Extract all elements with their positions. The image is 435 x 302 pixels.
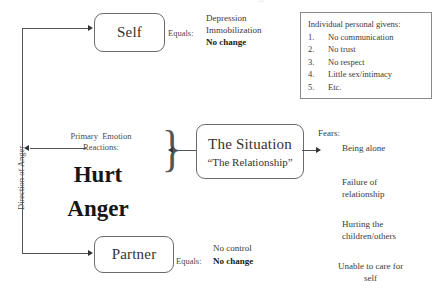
givens-item-text: No respect — [328, 57, 424, 67]
cropped-title-remnant: ○ — [258, 0, 264, 5]
emotion-anger: Anger — [40, 195, 156, 222]
node-self-label: Self — [117, 24, 142, 41]
givens-item: 1. No communication — [308, 32, 424, 42]
givens-title: Individual personal givens: — [308, 19, 424, 29]
partner-outcome-line1: No control — [213, 243, 252, 254]
situation-left-arrowhead — [168, 147, 173, 153]
fear-item-line2: self — [338, 273, 403, 285]
givens-item-text: No trust — [328, 44, 424, 54]
trunk-to-self-line — [22, 28, 88, 29]
fear-item: Failure of relationship — [342, 177, 385, 200]
partner-arrowhead — [88, 250, 93, 256]
node-self[interactable]: Self — [94, 13, 165, 52]
givens-item: 4. Little sex/intimacy — [308, 69, 424, 79]
node-partner[interactable]: Partner — [94, 236, 174, 273]
trunk-to-partner-line — [22, 253, 88, 254]
fear-item-line1: Hurting the — [342, 219, 396, 231]
fears-title: Fears: — [318, 128, 340, 139]
givens-item-text: Etc. — [328, 82, 424, 92]
givens-item: 2. No trust — [308, 44, 424, 54]
givens-item-number: 5. — [308, 82, 328, 92]
self-outcome-line1: Depression — [206, 13, 247, 24]
self-outcome-line3: No change — [206, 37, 246, 48]
node-situation[interactable]: The Situation “The Relationship” — [196, 124, 304, 179]
self-outcome-line2: Immobilization — [206, 25, 262, 36]
givens-box: Individual personal givens: 1. No commun… — [300, 12, 432, 99]
fear-item: Being alone — [342, 143, 385, 155]
givens-item-number: 4. — [308, 69, 328, 79]
givens-item-text: Little sex/intimacy — [328, 69, 424, 79]
fears-arrowhead — [316, 147, 321, 153]
node-situation-label: The Situation — [208, 136, 292, 153]
fear-item: Hurting the children/others — [342, 219, 396, 242]
fear-item-line2: relationship — [342, 189, 385, 201]
node-situation-sublabel: “The Relationship” — [207, 156, 292, 168]
fear-item-line1: Being alone — [342, 143, 385, 155]
situation-to-fears-line — [302, 150, 316, 151]
diagram-canvas: ○ Direction of Anger Self Equals: Depres… — [0, 0, 435, 302]
givens-item-number: 3. — [308, 57, 328, 67]
fear-item-line1: Unable to care for — [338, 261, 403, 273]
brace-to-situation-line — [172, 150, 196, 151]
self-arrowhead — [88, 25, 93, 31]
givens-item-text: No communication — [328, 32, 424, 42]
givens-item: 5. Etc. — [308, 82, 424, 92]
partner-equals-label: Equals: — [176, 256, 202, 266]
direction-of-anger-label: Direction of Anger — [16, 146, 26, 210]
node-partner-label: Partner — [112, 246, 157, 263]
self-equals-label: Equals: — [168, 28, 194, 38]
fear-item-line2: children/others — [342, 231, 396, 243]
fear-item-line1: Failure of — [342, 177, 385, 189]
primary-emotion-line1: Primary Emotion — [46, 131, 156, 141]
emotion-hurt: Hurt — [40, 161, 156, 188]
anger-trunk-line — [22, 28, 23, 253]
primary-emotion-line2: Reactions: — [46, 142, 156, 152]
trunk-arrowhead — [24, 145, 29, 151]
givens-item-number: 1. — [308, 32, 328, 42]
givens-item-number: 2. — [308, 44, 328, 54]
partner-outcome-line2: No change — [213, 256, 253, 267]
givens-item: 3. No respect — [308, 57, 424, 67]
fear-item: Unable to care for self — [338, 261, 403, 284]
